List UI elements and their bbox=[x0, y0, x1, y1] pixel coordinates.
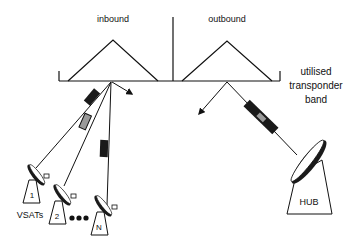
outbound-carrier-triangle bbox=[182, 41, 272, 81]
inbound-carrier-triangle bbox=[68, 40, 158, 81]
vsat-n-number: N bbox=[96, 223, 102, 232]
hub-label: HUB bbox=[299, 197, 318, 207]
vsat-2-number: 2 bbox=[55, 212, 60, 221]
transponder-band bbox=[59, 17, 280, 81]
band-label-line2: transponder bbox=[289, 80, 343, 91]
ellipsis-dots bbox=[69, 215, 88, 220]
hub-link bbox=[227, 82, 297, 155]
vsat-terminal-1: 1 bbox=[23, 162, 49, 203]
vsat-network-diagram: inbound outbound utilised transponder ba… bbox=[0, 0, 353, 241]
inbound-label: inbound bbox=[97, 14, 129, 24]
outbound-broadcast-arrow bbox=[199, 82, 227, 114]
packet-vsatN bbox=[100, 140, 109, 157]
vsat-1-number: 1 bbox=[30, 191, 35, 200]
packet-vsat2 bbox=[79, 113, 91, 130]
vsats-label: VSATs bbox=[17, 210, 44, 220]
inbound-to-outbound-arrow bbox=[112, 82, 132, 94]
band-label-line1: utilised bbox=[300, 66, 331, 77]
outbound-label: outbound bbox=[208, 14, 246, 24]
band-label-line3: band bbox=[305, 94, 327, 105]
hub-station: HUB bbox=[287, 136, 332, 214]
vsat-terminal-n: N bbox=[91, 193, 117, 235]
